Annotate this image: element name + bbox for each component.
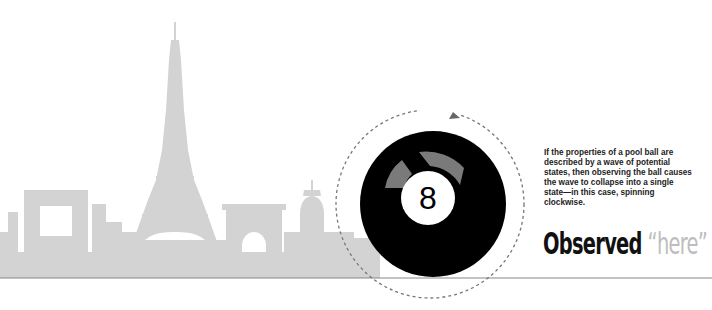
ball-number: 8	[419, 180, 437, 216]
headline: Observed“here”	[543, 226, 707, 261]
paris-skyline	[0, 22, 380, 278]
skyline-building	[130, 240, 230, 254]
invalides-dome	[284, 180, 354, 278]
pool-ball: 8	[360, 131, 506, 277]
headline-primary: Observed	[543, 226, 642, 261]
caption: If the properties of a pool ball are des…	[544, 148, 694, 208]
eiffel-tower	[130, 22, 220, 250]
headline-secondary: “here”	[648, 226, 708, 261]
